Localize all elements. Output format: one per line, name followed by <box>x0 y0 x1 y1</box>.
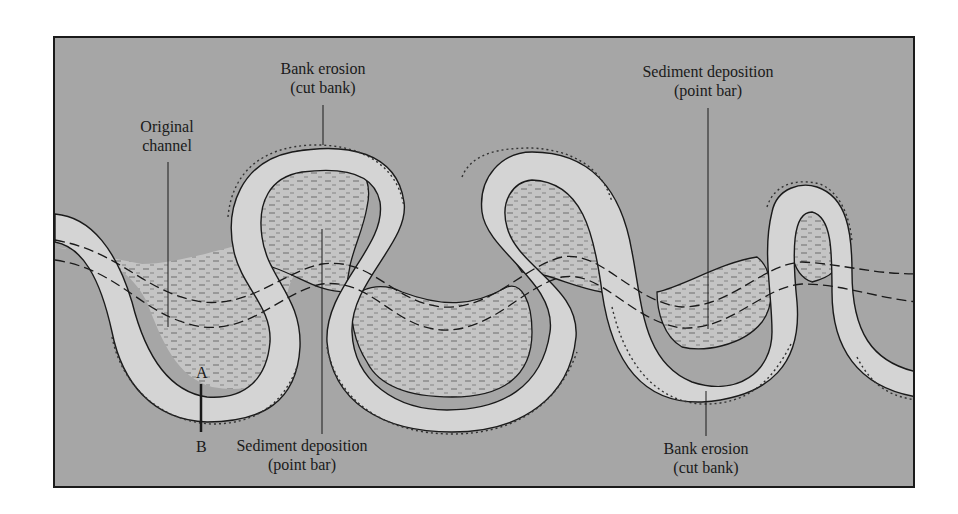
label-original-channel: Original channel <box>131 117 203 155</box>
point-bar-3 <box>352 286 532 397</box>
label-sediment-deposition-bottom: Sediment deposition (point bar) <box>227 436 377 474</box>
label-point-a: A <box>196 364 208 382</box>
label-sediment-deposition-top: Sediment deposition (point bar) <box>633 62 783 100</box>
point-bar-deposits <box>55 150 840 397</box>
label-point-b: B <box>196 438 207 456</box>
meander-diagram-frame: Original channel Bank erosion (cut bank)… <box>53 36 915 488</box>
label-bank-erosion-top: Bank erosion (cut bank) <box>263 59 383 97</box>
meander-diagram <box>55 38 915 488</box>
label-bank-erosion-bottom: Bank erosion (cut bank) <box>646 439 766 477</box>
